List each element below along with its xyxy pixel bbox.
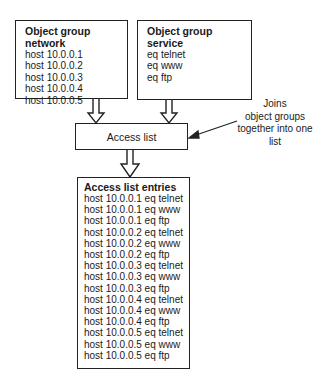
list-item: host 10.0.0.1: [25, 49, 127, 60]
list-item: eq www: [147, 60, 251, 71]
annotation-line: together into one: [232, 123, 318, 136]
annotation-note: Joins object groups together into one li…: [232, 98, 318, 148]
list-item: host 10.0.0.1 eq telnet: [84, 193, 189, 204]
network-object-group-box: Object group network host 10.0.0.1 host …: [15, 20, 128, 99]
service-group-title: Object group service: [147, 25, 251, 49]
annotation-line: Joins: [232, 98, 318, 111]
list-item: host 10.0.0.4 eq telnet: [84, 294, 189, 305]
list-item: host 10.0.0.5 eq www: [84, 339, 189, 350]
pointer-arrow-icon: [189, 121, 237, 138]
list-item: host 10.0.0.2 eq ftp: [84, 249, 189, 260]
hollow-arrow-down-icon: [121, 150, 139, 177]
entries-title: Access list entries: [84, 181, 189, 193]
list-item: host 10.0.0.4: [25, 83, 127, 94]
list-item: host 10.0.0.1 eq www: [84, 204, 189, 215]
list-item: host 10.0.0.2: [25, 60, 127, 71]
list-item: host 10.0.0.3 eq ftp: [84, 283, 189, 294]
network-group-title: Object group network: [25, 25, 127, 49]
list-item: host 10.0.0.2 eq telnet: [84, 227, 189, 238]
list-item: host 10.0.0.3: [25, 72, 127, 83]
service-object-group-box: Object group service eq telnet eq www eq…: [137, 20, 252, 100]
annotation-line: object groups: [232, 111, 318, 124]
list-item: host 10.0.0.5 eq telnet: [84, 327, 189, 338]
access-list-entries-box: Access list entries host 10.0.0.1 eq tel…: [77, 177, 190, 369]
list-item: host 10.0.0.2 eq www: [84, 238, 189, 249]
list-item: host 10.0.0.5 eq ftp: [84, 350, 189, 361]
list-item: host 10.0.0.4 eq ftp: [84, 316, 189, 327]
list-item: eq ftp: [147, 72, 251, 83]
list-item: host 10.0.0.5: [25, 95, 127, 106]
access-list-box: Access list: [75, 123, 188, 150]
list-item: host 10.0.0.1 eq ftp: [84, 215, 189, 226]
list-item: eq telnet: [147, 49, 251, 60]
access-list-label: Access list: [107, 131, 157, 143]
list-item: host 10.0.0.3 eq telnet: [84, 260, 189, 271]
list-item: host 10.0.0.4 eq www: [84, 305, 189, 316]
list-item: host 10.0.0.3 eq www: [84, 271, 189, 282]
annotation-line: list: [232, 136, 318, 149]
hollow-arrow-down-icon: [161, 100, 177, 123]
